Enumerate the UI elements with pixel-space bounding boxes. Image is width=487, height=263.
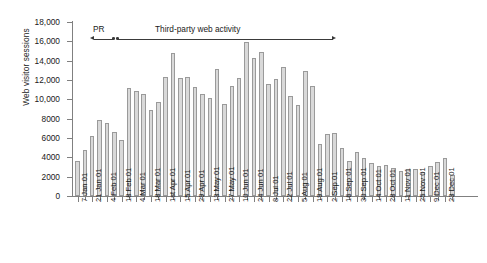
x-axis-tick-label: 7 Jan 01 [81, 173, 89, 202]
annotation-pr-label: PR [93, 24, 105, 34]
x-axis-tick-label: 4 Feb 01 [110, 172, 118, 202]
annotation-pr-left-arrowhead [90, 36, 94, 40]
annotation-pr-line [94, 39, 113, 40]
x-axis-tick-label: 10 Jun 01 [242, 169, 250, 202]
x-axis-tick-label: 23 Dec 01 [448, 167, 456, 202]
x-axis-tick-label: 18 Mar 01 [154, 168, 162, 202]
x-axis-tick-label: 11 Nov 01 [404, 168, 412, 202]
annotation-pr-right-cap [112, 37, 115, 40]
x-axis-tick-label: 1st Apr 01 [169, 168, 177, 202]
x-axis-tick-label: 24 Jun 01 [257, 169, 265, 202]
x-axis-tick-label: 21 Jan 01 [95, 169, 103, 202]
y-axis-tick [67, 61, 72, 62]
y-axis-tick [67, 41, 72, 42]
x-axis-tick-label: 16 Sep 01 [345, 167, 353, 202]
x-axis-tick-label: 29 Apr 01 [198, 169, 206, 202]
y-axis-tick [67, 196, 72, 197]
x-axis-tick-label: 22 Jul 01 [286, 171, 294, 202]
x-axis-tick-label: 27 May 01 [228, 167, 236, 202]
bar-chart: Web visitor sessions 18,00016,00014,0001… [0, 0, 487, 263]
annotation-third-party-right-arrowhead [332, 36, 336, 40]
x-axis-tick-label: 28 Oct 01 [389, 169, 397, 202]
x-axis-tick-label: 2 Sep 01 [331, 172, 339, 202]
x-axis-tick-label: 13 May 01 [213, 167, 221, 202]
y-axis-tick [67, 22, 72, 23]
y-axis-tick [67, 138, 72, 139]
x-axis-tick-label: 25 Nov 01 [419, 167, 427, 202]
x-axis-tick-label: 8 Jul 01 [272, 175, 280, 202]
y-axis-tick [67, 80, 72, 81]
annotation-third-party-left-cap [116, 37, 119, 40]
x-axis-tick-label: 15 Apr 01 [184, 169, 192, 202]
y-axis-tick [67, 99, 72, 100]
y-axis-tick [67, 157, 72, 158]
x-axis-tick-label: 9 Dec 01 [433, 172, 441, 202]
y-axis-tick [67, 177, 72, 178]
annotation-third-party-label: Third-party web activity [155, 24, 240, 34]
y-axis-tick [67, 119, 72, 120]
x-axis-tick-label: 5 Aug 01 [301, 172, 309, 202]
annotation-third-party-line [118, 39, 333, 40]
x-axis-tick-label: 4 Mar 01 [139, 172, 147, 202]
x-axis-tick-label: 19 Aug 01 [316, 168, 324, 202]
x-axis-tick-label: 18 Feb 01 [125, 168, 133, 202]
x-axis-tick-label: 14 Oct 01 [375, 169, 383, 202]
x-axis-tick-label: 30 Sep 01 [360, 167, 368, 202]
